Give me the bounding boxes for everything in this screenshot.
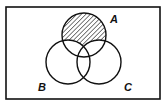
- set-b-label: B: [38, 81, 46, 93]
- shaded-region-a-only: [0, 0, 165, 111]
- venn-diagram: A B C: [0, 0, 165, 111]
- set-a-label: A: [109, 13, 118, 25]
- set-c-label: C: [124, 81, 133, 93]
